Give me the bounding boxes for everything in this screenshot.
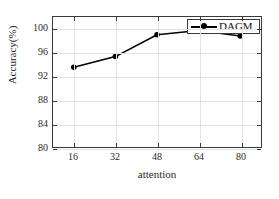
x-axis-tick-mark-top — [74, 17, 75, 21]
x-axis-tick-mark — [116, 143, 117, 147]
x-axis-tick-mark — [200, 143, 201, 147]
series-markers-dagm — [71, 28, 243, 70]
x-axis-tick-mark-top — [242, 17, 243, 21]
y-axis-tick-mark-right — [257, 125, 261, 126]
y-axis-tick-mark — [53, 29, 57, 30]
x-axis-title: attention — [52, 168, 262, 180]
y-axis-tick-label: 80 — [38, 143, 48, 153]
gridline-horizontal — [53, 125, 261, 126]
y-axis-tick-label: 88 — [38, 95, 48, 105]
legend-line-marker-sample — [191, 21, 217, 32]
y-axis-tick-mark-right — [257, 53, 261, 54]
y-axis-tick-label: 96 — [38, 47, 48, 57]
x-axis-tick-label: 64 — [194, 152, 204, 162]
y-axis-title: Accuracy(%) — [5, 0, 19, 121]
y-axis-tick-mark — [53, 77, 57, 78]
legend-label-dagm: DAGM — [217, 21, 253, 32]
series-plot-layer — [53, 17, 261, 147]
x-axis-tick-mark — [158, 143, 159, 147]
y-axis-tick-label: 100 — [33, 23, 48, 33]
gridline-horizontal — [53, 149, 261, 150]
gridline-horizontal — [53, 29, 261, 30]
y-axis-tick-mark — [53, 53, 57, 54]
y-axis-tick-mark-right — [257, 149, 261, 150]
gridline-vertical — [158, 17, 159, 147]
y-axis-tick-labels: 8084889296100 — [20, 16, 48, 148]
x-axis-tick-mark-top — [200, 17, 201, 21]
plot-area: DAGM — [52, 16, 262, 148]
y-axis-tick-label: 84 — [38, 119, 48, 129]
y-axis-tick-mark — [53, 125, 57, 126]
gridline-vertical — [74, 17, 75, 147]
gridline-vertical — [242, 17, 243, 147]
x-axis-tick-labels: 1632486480 — [52, 152, 262, 164]
x-axis-tick-label: 32 — [110, 152, 120, 162]
y-axis-tick-label: 92 — [38, 71, 48, 81]
x-axis-tick-label: 16 — [68, 152, 78, 162]
gridline-vertical — [116, 17, 117, 147]
x-axis-tick-mark-top — [116, 17, 117, 21]
x-axis-tick-mark — [242, 143, 243, 147]
gridline-horizontal — [53, 77, 261, 78]
x-axis-tick-mark-top — [158, 17, 159, 21]
gridline-vertical — [200, 17, 201, 147]
gridline-horizontal — [53, 101, 261, 102]
y-axis-tick-mark-right — [257, 101, 261, 102]
y-axis-tick-mark — [53, 149, 57, 150]
x-axis-tick-mark — [74, 143, 75, 147]
y-axis-tick-mark-right — [257, 29, 261, 30]
y-axis-tick-mark-right — [257, 77, 261, 78]
legend-box: DAGM — [187, 19, 260, 34]
x-axis-tick-label: 80 — [236, 152, 246, 162]
gridline-horizontal — [53, 53, 261, 54]
y-axis-title-container: Accuracy(%) — [5, 0, 19, 121]
x-axis-tick-label: 48 — [152, 152, 162, 162]
figure-canvas: Accuracy(%) 8084889296100 DAGM 163248648… — [0, 0, 279, 199]
y-axis-tick-mark — [53, 101, 57, 102]
